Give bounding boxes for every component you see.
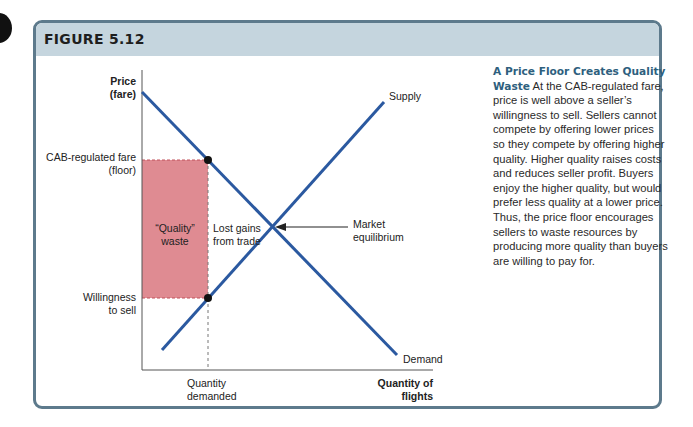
demand-label: Demand <box>403 353 443 366</box>
floor-price-label: CAB-regulated fare(floor) <box>30 151 136 177</box>
willingness-to-sell-label: Willingnessto sell <box>50 291 136 317</box>
x-axis-label: Quantity offlights <box>353 377 433 403</box>
quantity-demanded-label: Quantitydemanded <box>187 377 237 403</box>
lost-gains-label: Lost gainsfrom trade <box>213 222 261 248</box>
y-axis-label: Price(fare) <box>80 75 136 101</box>
caption-body: At the CAB-regulated fare, price is well… <box>493 80 668 267</box>
supply-label: Supply <box>389 90 421 103</box>
market-equilibrium-label: Marketequilibrium <box>353 218 404 244</box>
wts-supply-point <box>204 294 212 302</box>
quality-waste-label: “Quality”waste <box>142 222 208 248</box>
figure-caption: A Price Floor Creates Quality Waste At t… <box>493 64 668 268</box>
floor-demand-point <box>204 156 212 164</box>
